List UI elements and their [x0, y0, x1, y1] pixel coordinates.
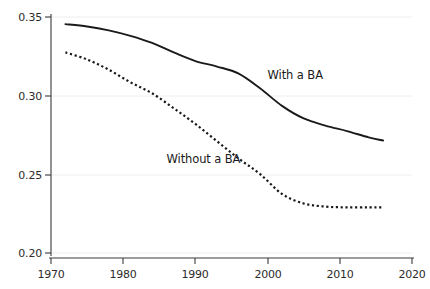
x-tick-label-2020: 2020 — [392, 268, 430, 281]
x-tick-label-1990: 1990 — [175, 268, 215, 281]
y-tick-label-035: 0.35 — [4, 11, 42, 24]
x-tick-label-1980: 1980 — [103, 268, 143, 281]
x-tick-label-2010: 2010 — [320, 268, 360, 281]
y-tick-label-030: 0.30 — [4, 90, 42, 103]
series-label-without-a-ba: Without a BA — [167, 152, 241, 166]
data-series-layer — [65, 24, 383, 207]
x-tick-label-1970: 1970 — [31, 268, 71, 281]
x-tick-label-2000: 2000 — [248, 268, 288, 281]
series-line-without-a-ba — [65, 52, 383, 207]
axis-lines — [49, 14, 414, 258]
series-line-with-a-ba — [65, 24, 383, 140]
y-axis-ticks — [45, 17, 51, 253]
y-tick-label-025: 0.25 — [4, 169, 42, 182]
series-label-with-a-ba: With a BA — [268, 68, 323, 82]
y-tick-label-020: 0.20 — [4, 247, 42, 260]
x-axis-ticks — [51, 258, 412, 264]
